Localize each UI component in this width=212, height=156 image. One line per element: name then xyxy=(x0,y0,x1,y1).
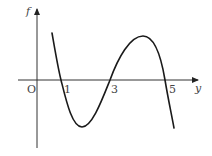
graph-canvas xyxy=(0,0,212,156)
f-axis-label: f xyxy=(26,6,30,17)
origin-label: O xyxy=(27,84,36,95)
function-graph: f y O 1 3 5 xyxy=(0,0,212,156)
tick-label-1: 1 xyxy=(64,84,71,95)
y-axis-label: y xyxy=(195,83,201,94)
tick-label-3: 3 xyxy=(111,84,118,95)
tick-label-5: 5 xyxy=(169,84,176,95)
